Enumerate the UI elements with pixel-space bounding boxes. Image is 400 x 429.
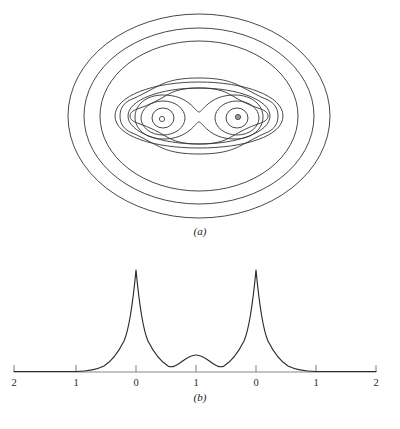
contour-line-6 bbox=[120, 78, 278, 154]
contour-line-2 bbox=[84, 28, 314, 204]
nucleus-marker-right bbox=[235, 114, 240, 119]
contour-line-9-left bbox=[141, 101, 185, 135]
tick-label-2: 1 bbox=[73, 377, 78, 388]
tick-label-7: 2 bbox=[373, 377, 378, 388]
density-profile-curve bbox=[14, 270, 376, 372]
panel-a-caption: (a) bbox=[0, 225, 400, 237]
contour-line-1 bbox=[68, 14, 330, 218]
contour-plot-svg bbox=[0, 0, 400, 250]
contour-lines-group bbox=[68, 14, 330, 218]
panel-b-caption: (b) bbox=[0, 391, 400, 403]
figure-container: (a) 2 1 0 1 0 1 2 bbox=[0, 0, 400, 429]
contour-line-10-left bbox=[152, 108, 174, 128]
tick-label-6: 1 bbox=[313, 377, 318, 388]
nucleus-marker-left bbox=[159, 116, 164, 121]
contour-line-5 bbox=[128, 88, 270, 144]
contour-line-7 bbox=[130, 88, 268, 144]
panel-a-contour-map bbox=[0, 0, 400, 250]
tick-label-5: 0 bbox=[253, 377, 258, 388]
tick-label-4: 1 bbox=[193, 377, 198, 388]
tick-label-1: 2 bbox=[11, 377, 16, 388]
tick-label-3: 0 bbox=[133, 377, 138, 388]
x-axis-tick-labels: 2 1 0 1 0 1 2 bbox=[11, 377, 378, 388]
contour-line-4 bbox=[115, 82, 283, 148]
